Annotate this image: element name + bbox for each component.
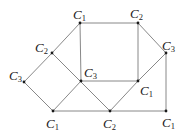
graph-node [52, 110, 55, 113]
graph-edge [24, 53, 52, 82]
node-label: C1 [140, 83, 153, 99]
node-label: C3 [162, 38, 175, 54]
graph-edge [24, 82, 53, 111]
node-label: C2 [35, 40, 48, 56]
node-label: C2 [130, 6, 143, 22]
node-label: C1 [46, 116, 59, 132]
graph-edge [52, 23, 80, 53]
node-label: C3 [84, 65, 97, 81]
graph-node [51, 52, 54, 55]
graph-nodes [23, 22, 168, 113]
graph-node [23, 81, 26, 84]
graph-node [137, 22, 140, 25]
graph-node [80, 80, 83, 83]
graph-edge [53, 81, 81, 111]
node-label: C1 [162, 115, 175, 131]
graph-diagram: C1C2C2C3C3C3C1C1C2C1 [0, 0, 183, 137]
graph-node [165, 110, 168, 113]
node-label: C2 [103, 116, 116, 132]
node-label: C1 [73, 7, 86, 23]
graph-node [109, 110, 112, 113]
graph-edge [110, 81, 138, 111]
graph-edge [138, 53, 166, 81]
graph-node [137, 80, 140, 83]
node-label: C3 [9, 68, 22, 84]
graph-edge [80, 23, 81, 81]
